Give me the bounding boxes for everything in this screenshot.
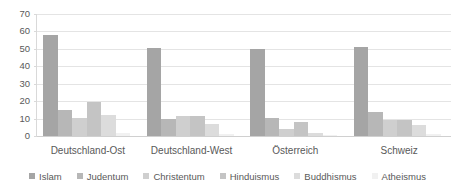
x-axis-category-labels: Deutschland-OstDeutschland-WestÖsterreic… bbox=[36, 142, 451, 160]
legend-swatch-icon bbox=[143, 173, 149, 179]
y-axis-tick-label: 10 bbox=[19, 114, 30, 124]
legend-label: Christentum bbox=[153, 171, 204, 182]
bar[interactable] bbox=[116, 133, 131, 136]
bar[interactable] bbox=[147, 48, 162, 136]
bar[interactable] bbox=[72, 118, 87, 136]
legend-swatch-icon bbox=[220, 173, 226, 179]
legend-label: Atheismus bbox=[382, 171, 426, 182]
bar-group-bars bbox=[37, 14, 141, 136]
bar[interactable] bbox=[368, 112, 383, 136]
bar[interactable] bbox=[412, 125, 427, 136]
bar[interactable] bbox=[87, 102, 102, 136]
bar[interactable] bbox=[58, 110, 73, 136]
legend-swatch-icon bbox=[77, 173, 83, 179]
y-axis-tick-label: 0 bbox=[25, 131, 30, 141]
legend-label: Buddhismus bbox=[304, 171, 356, 182]
bar[interactable] bbox=[383, 120, 398, 136]
bar-group bbox=[37, 14, 141, 136]
bar[interactable] bbox=[43, 35, 58, 136]
y-axis-tick-label: 50 bbox=[19, 44, 30, 54]
bar-chart: 706050403020100 Deutschland-OstDeutschla… bbox=[0, 0, 455, 192]
plot-wrapper: 706050403020100 bbox=[0, 0, 455, 142]
y-axis-tick-label: 60 bbox=[19, 26, 30, 36]
bar[interactable] bbox=[205, 124, 220, 136]
legend-item[interactable]: Atheismus bbox=[372, 171, 426, 182]
legend-swatch-icon bbox=[372, 173, 378, 179]
bar[interactable] bbox=[176, 116, 191, 136]
y-axis-tick-label: 30 bbox=[19, 79, 30, 89]
plot-area bbox=[36, 14, 451, 136]
x-axis-category-label: Deutschland-Ost bbox=[36, 142, 140, 160]
bar-group bbox=[141, 14, 245, 136]
legend-label: Hinduismus bbox=[230, 171, 280, 182]
bar[interactable] bbox=[308, 133, 323, 136]
legend-swatch-icon bbox=[294, 173, 300, 179]
bar[interactable] bbox=[397, 120, 412, 136]
bar-group-bars bbox=[348, 14, 452, 136]
y-axis: 706050403020100 bbox=[0, 0, 34, 142]
bar[interactable] bbox=[219, 134, 234, 136]
bar[interactable] bbox=[323, 135, 338, 136]
y-axis-tick-label: 70 bbox=[19, 9, 30, 19]
chart-legend: IslamJudentumChristentumHinduismusBuddhi… bbox=[0, 166, 455, 186]
bar-group bbox=[348, 14, 452, 136]
bar[interactable] bbox=[279, 129, 294, 136]
legend-item[interactable]: Islam bbox=[29, 171, 62, 182]
legend-item[interactable]: Judentum bbox=[77, 171, 129, 182]
legend-item[interactable]: Buddhismus bbox=[294, 171, 356, 182]
legend-label: Islam bbox=[39, 171, 62, 182]
bar[interactable] bbox=[265, 118, 280, 136]
bar[interactable] bbox=[101, 115, 116, 136]
bar[interactable] bbox=[250, 49, 265, 136]
legend-swatch-icon bbox=[29, 173, 35, 179]
bar[interactable] bbox=[190, 116, 205, 136]
x-axis-category-label: Österreich bbox=[244, 142, 348, 160]
bar[interactable] bbox=[354, 47, 369, 136]
y-axis-tick-label: 40 bbox=[19, 61, 30, 71]
legend-label: Judentum bbox=[87, 171, 129, 182]
bar[interactable] bbox=[426, 134, 441, 136]
x-axis-category-label: Deutschland-West bbox=[140, 142, 244, 160]
bar-group-bars bbox=[244, 14, 348, 136]
axis-baseline bbox=[37, 136, 451, 137]
bar-group-bars bbox=[141, 14, 245, 136]
bar[interactable] bbox=[161, 119, 176, 136]
x-axis-category-label: Schweiz bbox=[347, 142, 451, 160]
bar[interactable] bbox=[294, 122, 309, 136]
y-axis-tick-label: 20 bbox=[19, 96, 30, 106]
bar-groups bbox=[37, 14, 451, 136]
legend-item[interactable]: Christentum bbox=[143, 171, 204, 182]
legend-item[interactable]: Hinduismus bbox=[220, 171, 280, 182]
bar-group bbox=[244, 14, 348, 136]
